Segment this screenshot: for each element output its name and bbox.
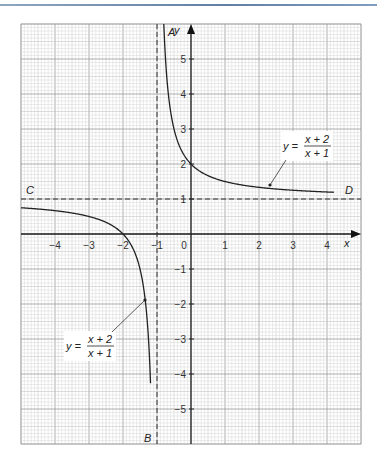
x-tick-label: 3: [290, 240, 296, 251]
label-B: B: [144, 432, 151, 444]
label-C: C: [26, 184, 34, 196]
svg-text:y =: y =: [65, 340, 82, 352]
y-tick-label: −5: [175, 404, 187, 415]
svg-text:x + 2: x + 2: [304, 133, 329, 145]
svg-text:x + 1: x + 1: [304, 147, 329, 159]
y-tick-label: 3: [180, 124, 186, 135]
y-tick-label: −4: [175, 369, 187, 380]
x-tick-label: −4: [49, 240, 61, 251]
y-tick-label: 5: [180, 54, 186, 65]
svg-text:x + 2: x + 2: [87, 333, 112, 345]
y-tick-label: −3: [175, 334, 187, 345]
x-tick-label: −1: [151, 240, 163, 251]
y-tick-label: −2: [175, 299, 187, 310]
x-axis-label: x: [343, 237, 350, 249]
y-tick-label: 4: [180, 89, 186, 100]
y-tick-label: 1: [180, 194, 186, 205]
x-tick-label: −2: [117, 240, 129, 251]
x-tick-label: 0: [181, 240, 187, 251]
x-tick-label: 2: [256, 240, 262, 251]
y-tick-label: 2: [180, 159, 186, 170]
graph-chart: −4−3−2−101234−5−4−3−2−112345 A B C D y x…: [0, 0, 377, 474]
svg-text:y =: y =: [282, 140, 299, 152]
x-tick-label: 4: [324, 240, 330, 251]
x-tick-label: 1: [222, 240, 228, 251]
x-tick-label: −3: [83, 240, 95, 251]
y-tick-label: −1: [175, 264, 187, 275]
svg-text:x + 1: x + 1: [87, 347, 112, 359]
label-D: D: [345, 184, 353, 196]
